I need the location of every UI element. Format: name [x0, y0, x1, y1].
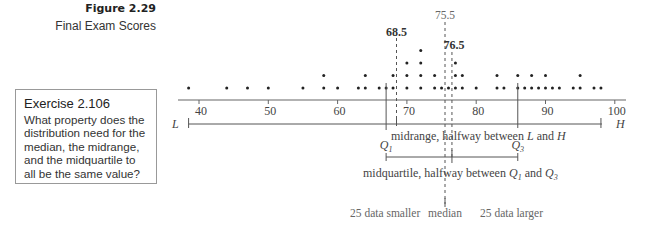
- midquartile-value-label: 76.5: [443, 38, 464, 52]
- data-dot: [419, 87, 422, 90]
- data-dot: [440, 87, 443, 90]
- midrange-description: midrange, halfway between L and H: [391, 129, 567, 143]
- data-dot: [599, 87, 602, 90]
- larger-data-label: 25 data larger: [480, 207, 543, 220]
- data-dot: [447, 87, 450, 90]
- data-dot: [225, 87, 228, 90]
- data-dot: [405, 74, 408, 77]
- data-dot: [246, 87, 249, 90]
- data-dot: [405, 62, 408, 65]
- data-dot: [301, 87, 304, 90]
- data-dot: [593, 87, 596, 90]
- data-dot: [378, 87, 381, 90]
- data-dot: [419, 74, 422, 77]
- data-dot: [433, 87, 436, 90]
- data-dot: [392, 87, 395, 90]
- x-axis-ticks: 405060708090100: [195, 100, 626, 118]
- data-dot: [516, 74, 519, 77]
- data-dot: [357, 87, 360, 90]
- data-dot: [364, 87, 367, 90]
- data-dot: [579, 87, 582, 90]
- data-dot: [461, 74, 464, 77]
- data-dot: [187, 87, 190, 90]
- dot-plot: 405060708090100 68.5 75.5 76.5 L H midra…: [0, 0, 654, 236]
- median-label: median: [428, 207, 462, 219]
- x-tick-label: 70: [403, 104, 415, 118]
- data-dots: [187, 49, 602, 90]
- data-dot: [454, 87, 457, 90]
- data-dot: [419, 62, 422, 65]
- x-tick-label: 60: [334, 104, 346, 118]
- data-dot: [572, 87, 575, 90]
- median-value-label: 75.5: [435, 9, 455, 21]
- data-dot: [537, 87, 540, 90]
- data-dot: [419, 49, 422, 52]
- data-dot: [579, 74, 582, 77]
- data-dot: [544, 74, 547, 77]
- data-dot: [433, 74, 436, 77]
- smaller-data-label: 25 data smaller: [350, 207, 420, 219]
- L-label: L: [171, 117, 179, 131]
- x-tick-label: 80: [472, 104, 484, 118]
- H-label: H: [615, 117, 626, 131]
- x-tick-label: 40: [195, 104, 207, 118]
- data-dot: [530, 87, 533, 90]
- x-tick-label: 90: [542, 104, 554, 118]
- data-dot: [523, 87, 526, 90]
- data-dot: [495, 87, 498, 90]
- data-dot: [544, 87, 547, 90]
- x-tick-label: 100: [608, 104, 626, 118]
- data-dot: [454, 62, 457, 65]
- data-dot: [392, 74, 395, 77]
- data-dot: [475, 87, 478, 90]
- data-dot: [364, 74, 367, 77]
- data-dot: [322, 87, 325, 90]
- data-dot: [454, 74, 457, 77]
- data-dot: [551, 87, 554, 90]
- data-dot: [336, 87, 339, 90]
- data-dot: [530, 74, 533, 77]
- midrange-value-label: 68.5: [386, 25, 407, 39]
- data-dot: [461, 87, 464, 90]
- data-dot: [495, 74, 498, 77]
- data-dot: [267, 87, 270, 90]
- data-dot: [322, 74, 325, 77]
- x-tick-label: 50: [264, 104, 276, 118]
- data-dot: [405, 87, 408, 90]
- midquartile-description: midquartile, halfway between Q1 and Q3: [363, 166, 558, 182]
- data-dot: [558, 87, 561, 90]
- data-dot: [502, 87, 505, 90]
